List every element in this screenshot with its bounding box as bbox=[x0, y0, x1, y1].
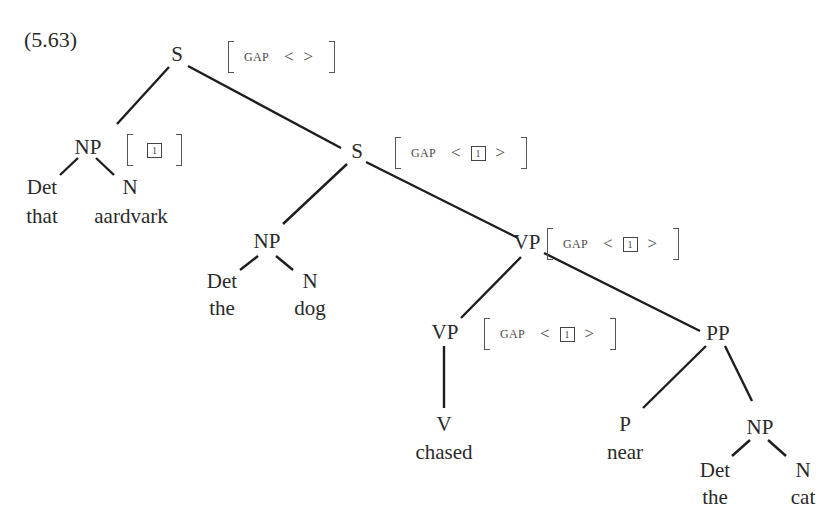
node-subject-np: NP bbox=[254, 231, 281, 252]
node-n: N bbox=[122, 177, 137, 198]
edge-np-n bbox=[96, 158, 114, 175]
avm-inner-vp-gap: GAP < 1 > bbox=[484, 318, 616, 350]
avm-fronted-np-tag: 1 bbox=[127, 134, 182, 166]
node-root-s: S bbox=[171, 44, 183, 65]
avm-vp-gap: GAP < 1 > bbox=[547, 228, 679, 260]
edge-vp-vp bbox=[461, 257, 521, 318]
word-the: the bbox=[209, 298, 235, 319]
boxed-tag: 1 bbox=[623, 237, 638, 252]
edge-pp-p bbox=[643, 346, 706, 408]
edge-pp-np bbox=[725, 346, 752, 401]
angle-close: > bbox=[585, 324, 595, 344]
edge-s2-np bbox=[283, 164, 347, 224]
feature-name: GAP bbox=[563, 237, 588, 252]
boxed-tag: 1 bbox=[471, 146, 486, 161]
node-vp: VP bbox=[514, 232, 541, 253]
edge-s-np bbox=[117, 67, 169, 124]
angle-open: < bbox=[540, 324, 550, 344]
avm-root-gap: GAP < > bbox=[228, 41, 335, 73]
node-inner-s: S bbox=[351, 141, 363, 162]
angle-open: < bbox=[284, 47, 294, 67]
node-object-np: NP bbox=[747, 417, 774, 438]
bracket-left bbox=[127, 134, 133, 166]
bracket-right bbox=[329, 41, 335, 73]
angle-close: > bbox=[304, 47, 314, 67]
node-n: N bbox=[795, 460, 810, 481]
bracket-left bbox=[547, 228, 553, 260]
word-dog: dog bbox=[294, 298, 326, 319]
node-det: Det bbox=[207, 271, 237, 292]
bracket-right bbox=[610, 318, 616, 350]
node-det: Det bbox=[700, 460, 730, 481]
bracket-right bbox=[673, 228, 679, 260]
example-number: (5.63) bbox=[24, 27, 77, 53]
node-det: Det bbox=[27, 177, 57, 198]
word-chased: chased bbox=[415, 442, 472, 463]
edge-s2-vp bbox=[366, 162, 518, 238]
node-fronted-np: NP bbox=[75, 137, 102, 158]
angle-close: > bbox=[648, 234, 658, 254]
edge-np2-det bbox=[240, 256, 258, 270]
edge-np3-n bbox=[768, 440, 786, 456]
word-the: the bbox=[702, 487, 728, 508]
node-pp: PP bbox=[706, 323, 729, 344]
word-near: near bbox=[607, 442, 643, 463]
word-aardvark: aardvark bbox=[94, 206, 167, 227]
node-n: N bbox=[302, 271, 317, 292]
node-p: P bbox=[619, 414, 631, 435]
bracket-left bbox=[484, 318, 490, 350]
bracket-left bbox=[228, 41, 234, 73]
bracket-right bbox=[176, 134, 182, 166]
feature-name: GAP bbox=[411, 146, 436, 161]
edge-s-s bbox=[188, 66, 341, 148]
bracket-left bbox=[395, 137, 401, 169]
boxed-tag: 1 bbox=[147, 143, 162, 158]
word-that: that bbox=[26, 206, 58, 227]
bracket-right bbox=[521, 137, 527, 169]
angle-open: < bbox=[451, 143, 461, 163]
angle-close: > bbox=[496, 143, 506, 163]
boxed-tag: 1 bbox=[560, 327, 575, 342]
edge-np2-n bbox=[276, 256, 293, 270]
node-inner-vp: VP bbox=[432, 322, 459, 343]
avm-inner-s-gap: GAP < 1 > bbox=[395, 137, 527, 169]
word-cat: cat bbox=[791, 487, 815, 508]
edge-np-det bbox=[60, 158, 78, 175]
edge-np3-det bbox=[732, 440, 750, 456]
feature-name: GAP bbox=[244, 50, 269, 65]
node-v: V bbox=[436, 414, 451, 435]
feature-name: GAP bbox=[500, 327, 525, 342]
angle-open: < bbox=[603, 234, 613, 254]
